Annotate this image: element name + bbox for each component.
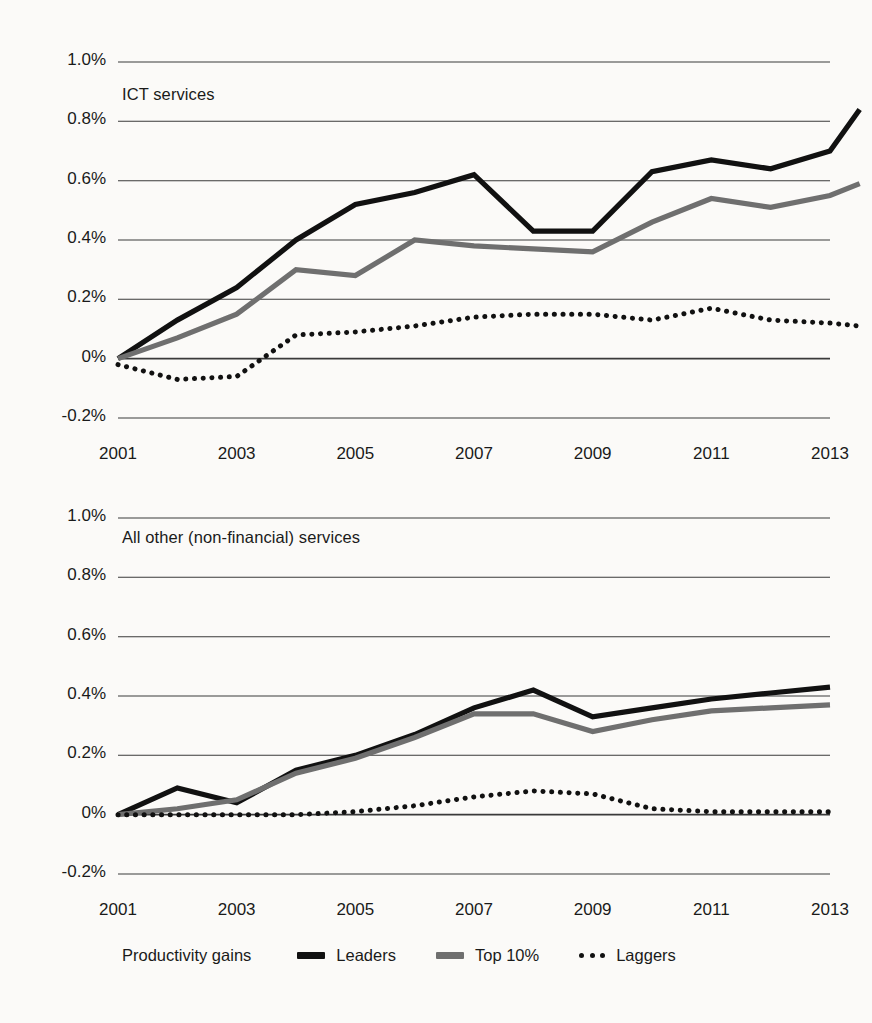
x-axis-tick-label: 2005 bbox=[320, 444, 390, 464]
x-axis-tick-label: 2007 bbox=[439, 900, 509, 920]
x-axis-tick-label: 2011 bbox=[676, 900, 746, 920]
y-axis-tick-label: 0.8% bbox=[26, 109, 106, 129]
x-axis-tick-label: 2005 bbox=[320, 900, 390, 920]
line-swatch-leaders-icon bbox=[297, 952, 325, 959]
legend-label-laggers: Laggers bbox=[616, 946, 676, 965]
line-swatch-top10-icon bbox=[436, 952, 464, 959]
x-axis-tick-label: 2001 bbox=[83, 900, 153, 920]
x-axis-tick-label: 2013 bbox=[795, 444, 865, 464]
chart-title-ict-services: ICT services bbox=[122, 85, 215, 104]
y-axis-tick-label: -0.2% bbox=[26, 862, 106, 882]
y-axis-tick-label: 0% bbox=[26, 803, 106, 823]
x-axis-tick-label: 2003 bbox=[202, 900, 272, 920]
data-series-line-top-10 bbox=[118, 184, 860, 359]
y-axis-tick-label: 0.8% bbox=[26, 565, 106, 585]
data-series-line-leaders bbox=[118, 109, 860, 358]
x-axis-tick-label: 2009 bbox=[558, 900, 628, 920]
y-axis-tick-label: 0% bbox=[26, 347, 106, 367]
y-axis-tick-label: -0.2% bbox=[26, 406, 106, 426]
legend-item-leaders: Leaders bbox=[297, 946, 396, 965]
y-axis-tick-label: 0.6% bbox=[26, 625, 106, 645]
y-axis-tick-label: 1.0% bbox=[26, 506, 106, 526]
x-axis-tick-label: 2007 bbox=[439, 444, 509, 464]
y-axis-tick-label: 0.2% bbox=[26, 743, 106, 763]
ict-services-plot bbox=[0, 0, 872, 475]
legend-item-laggers: Laggers bbox=[579, 946, 676, 965]
other-services-plot bbox=[0, 480, 872, 930]
x-axis-tick-label: 2001 bbox=[83, 444, 153, 464]
chart-panel-ict-services: ICT services 1.0%0.8%0.6%0.4%0.2%0%-0.2%… bbox=[0, 0, 872, 475]
dotted-line-swatch-laggers-icon bbox=[579, 952, 605, 958]
legend-title: Productivity gains bbox=[122, 946, 251, 965]
y-axis-tick-label: 0.6% bbox=[26, 169, 106, 189]
x-axis-tick-label: 2003 bbox=[202, 444, 272, 464]
x-axis-tick-label: 2011 bbox=[676, 444, 746, 464]
chart-title-other-services: All other (non-financial) services bbox=[122, 528, 360, 547]
x-axis-tick-label: 2013 bbox=[795, 900, 865, 920]
legend-item-top10: Top 10% bbox=[436, 946, 539, 965]
y-axis-tick-label: 0.2% bbox=[26, 287, 106, 307]
x-axis-tick-label: 2009 bbox=[558, 444, 628, 464]
y-axis-tick-label: 0.4% bbox=[26, 684, 106, 704]
y-axis-tick-label: 1.0% bbox=[26, 50, 106, 70]
chart-legend: Productivity gains Leaders Top 10% Lagge… bbox=[0, 930, 872, 980]
productivity-gains-figure: ICT services 1.0%0.8%0.6%0.4%0.2%0%-0.2%… bbox=[0, 0, 872, 1023]
chart-panel-other-services: All other (non-financial) services 1.0%0… bbox=[0, 480, 872, 930]
legend-label-top10: Top 10% bbox=[475, 946, 539, 965]
y-axis-tick-label: 0.4% bbox=[26, 228, 106, 248]
legend-label-leaders: Leaders bbox=[336, 946, 396, 965]
